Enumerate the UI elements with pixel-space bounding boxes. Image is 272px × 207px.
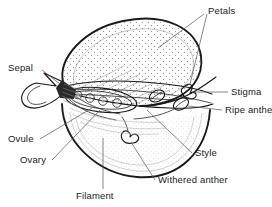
label-ovule: Ovule (8, 133, 34, 144)
label-ripe-anther: Ripe anther (225, 104, 272, 115)
leader-sepal (42, 70, 60, 84)
label-petals: Petals (208, 5, 235, 16)
receptacle-texture (58, 104, 216, 184)
label-style: Style (195, 147, 217, 158)
upper-petal-texture (55, 12, 215, 112)
label-stigma: Stigma (231, 86, 262, 97)
label-withered-anther: Withered anther (158, 174, 228, 185)
flower-cross-section-diagram: Petals Sepal Stigma Ripe anther Ovule Ov… (0, 0, 272, 207)
diagram-page: Petals Sepal Stigma Ripe anther Ovule Ov… (0, 0, 272, 207)
label-filament: Filament (76, 190, 114, 201)
label-sepal: Sepal (8, 62, 33, 73)
label-ovary: Ovary (20, 154, 46, 165)
